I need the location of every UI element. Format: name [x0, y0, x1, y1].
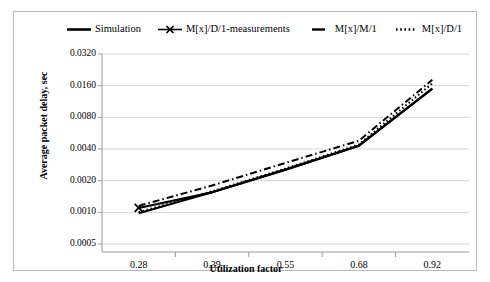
y-axis-tick-label: 0.0080: [50, 112, 96, 122]
y-axis-tick-label: 0.0005: [50, 239, 96, 249]
chart-figure: Simulation M[x]/D/1-measurements M[: [0, 0, 490, 282]
series-line: [139, 80, 433, 206]
y-axis-tick-label: 0.0020: [50, 176, 96, 186]
series-line: [139, 89, 433, 208]
chart-frame: Simulation M[x]/D/1-measurements M[: [13, 11, 477, 271]
y-axis-tick-label: 0.0320: [50, 49, 96, 59]
plot-area: 0.00050.00100.00200.00400.00800.01600.03…: [14, 12, 478, 272]
y-axis-tick-label: 0.0040: [50, 144, 96, 154]
x-axis-title: Utilization factor: [14, 263, 478, 274]
y-axis-tick-label: 0.0010: [50, 207, 96, 217]
y-axis-title: Average packet delay, sec: [38, 41, 49, 211]
y-axis-tick-label: 0.0160: [50, 81, 96, 91]
